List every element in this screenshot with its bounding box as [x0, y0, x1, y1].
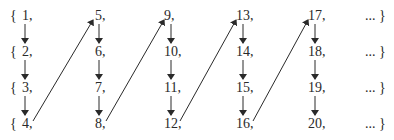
- number-label: 4,: [22, 116, 33, 132]
- number-label: 16,: [236, 116, 254, 132]
- ellipsis-close-brace: ... }: [365, 116, 386, 132]
- arrow-diagonal-icon: [180, 20, 236, 121]
- number-label: 15,: [236, 80, 254, 96]
- number-label: 3,: [22, 80, 33, 96]
- arrow-diagonal-icon: [253, 20, 308, 121]
- number-label: 12,: [164, 116, 182, 132]
- ellipsis-close-brace: ... }: [365, 44, 386, 60]
- number-label: 6,: [95, 44, 106, 60]
- number-label: 18,: [308, 44, 326, 60]
- number-label: 19,: [308, 80, 326, 96]
- arrow-diagonal-icon: [106, 20, 164, 121]
- number-label: 20,: [308, 116, 326, 132]
- arrows-layer: [0, 0, 394, 140]
- open-brace: {: [10, 44, 17, 60]
- open-brace: {: [10, 116, 17, 132]
- number-label: 8,: [95, 116, 106, 132]
- number-label: 14,: [236, 44, 254, 60]
- number-label: 17,: [308, 8, 326, 24]
- number-label: 11,: [164, 80, 181, 96]
- open-brace: {: [10, 8, 17, 24]
- number-label: 13,: [236, 8, 254, 24]
- number-label: 10,: [164, 44, 182, 60]
- number-label: 7,: [95, 80, 106, 96]
- number-label: 9,: [164, 8, 175, 24]
- ellipsis-close-brace: ... }: [365, 8, 386, 24]
- number-label: 5,: [95, 8, 106, 24]
- open-brace: {: [10, 80, 17, 96]
- number-label: 1,: [22, 8, 33, 24]
- arrow-diagonal-icon: [33, 20, 93, 121]
- ellipsis-close-brace: ... }: [365, 80, 386, 96]
- number-label: 2,: [22, 44, 33, 60]
